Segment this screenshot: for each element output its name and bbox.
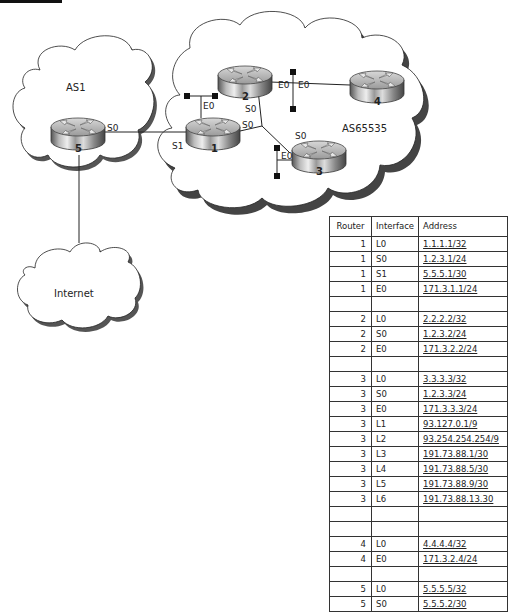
cell-interface: L0 [372,237,419,252]
cell-interface [372,567,419,582]
cell-address: 1.2.3.1/24 [419,252,508,267]
svg-text:3: 3 [316,166,323,177]
cell-address: 171.3.1.1/24 [419,282,508,297]
cell-address [419,567,508,582]
cell-router [330,297,372,312]
table-row: 3L6191.73.88.13.30 [330,492,508,507]
cloud-as65535: AS65535 [158,11,429,214]
cell-router: 5 [330,597,372,612]
table-row: 1S01.2.3.1/24 [330,252,508,267]
cell-address: 5.5.5.1/30 [419,267,508,282]
cell-interface: E0 [372,282,419,297]
cell-interface: E0 [372,552,419,567]
table-row [330,567,508,582]
table-row: 3L5191.73.88.9/30 [330,477,508,492]
cell-interface: L4 [372,462,419,477]
svg-text:5: 5 [75,143,82,154]
cell-interface: L0 [372,372,419,387]
cloud-as1: AS1 [13,36,157,171]
table-row: 5S05.5.5.2/30 [330,597,508,612]
table-row [330,507,508,522]
table-row: 5L05.5.5.5/32 [330,582,508,597]
table-row: 2L02.2.2.2/32 [330,312,508,327]
label-r1-s0: S0 [242,120,254,130]
cell-address: 3.3.3.3/32 [419,372,508,387]
cell-router: 3 [330,432,372,447]
table-row: 4L04.4.4.4/32 [330,537,508,552]
cell-address: 2.2.2.2/32 [419,312,508,327]
cell-interface [372,297,419,312]
cloud-label-as65535: AS65535 [342,123,387,134]
table-header-row: Router Interface Address [330,217,508,237]
cell-router: 3 [330,387,372,402]
cloud-label-internet: Internet [54,288,94,299]
cell-interface: L0 [372,582,419,597]
cell-interface: E0 [372,402,419,417]
svg-text:4: 4 [374,96,381,107]
cell-router: 3 [330,492,372,507]
table-row: 4E0171.3.2.4/24 [330,552,508,567]
cell-interface [372,357,419,372]
cell-router: 1 [330,282,372,297]
cell-interface: L6 [372,492,419,507]
label-r3-e0: E0 [281,151,293,161]
cell-interface: S1 [372,267,419,282]
cell-address [419,522,508,537]
cell-interface: S0 [372,597,419,612]
table-row: 3L03.3.3.3/32 [330,372,508,387]
cell-router [330,522,372,537]
cell-router: 2 [330,342,372,357]
cell-address: 171.3.2.2/24 [419,342,508,357]
cell-interface: L3 [372,447,419,462]
cell-address: 1.1.1.1/32 [419,237,508,252]
cloud-internet: Internet [17,243,143,332]
table-row: 3L4191.73.88.5/30 [330,462,508,477]
cell-address: 191.73.88.9/30 [419,477,508,492]
cell-router: 3 [330,372,372,387]
cell-router: 3 [330,447,372,462]
cell-interface: L0 [372,312,419,327]
svg-text:1: 1 [211,143,218,154]
header-interface: Interface [372,217,419,237]
cell-router: 3 [330,477,372,492]
cell-address: 191.73.88.5/30 [419,462,508,477]
cell-interface: S0 [372,327,419,342]
header-router: Router [330,217,372,237]
cell-router: 5 [330,582,372,597]
cell-router: 3 [330,417,372,432]
label-r1-e0: E0 [203,101,215,111]
cell-router: 4 [330,552,372,567]
label-r4-e0: E0 [298,80,310,90]
cell-router: 2 [330,327,372,342]
table-row [330,357,508,372]
cell-router: 1 [330,237,372,252]
cell-interface: S0 [372,252,419,267]
cell-address [419,357,508,372]
cell-interface [372,507,419,522]
cell-address: 4.4.4.4/32 [419,537,508,552]
label-r3-s0: S0 [295,131,307,141]
label-r2-s0: S0 [245,104,257,114]
cell-interface [372,522,419,537]
cell-interface: E0 [372,342,419,357]
cell-router: 1 [330,267,372,282]
cell-interface: L5 [372,477,419,492]
cell-router [330,567,372,582]
cell-address: 5.5.5.2/30 [419,597,508,612]
label-r1-s1: S1 [172,141,183,151]
cell-router [330,357,372,372]
cell-router [330,507,372,522]
label-r2-e0: E0 [278,80,290,90]
cell-address: 171.3.2.4/24 [419,552,508,567]
table-row: 3S01.2.3.3/24 [330,387,508,402]
cell-interface: S0 [372,387,419,402]
cell-address: 93.127.0.1/9 [419,417,508,432]
cell-interface: L1 [372,417,419,432]
table-row: 3L293.254.254.254/9 [330,432,508,447]
address-table: Router Interface Address 1L01.1.1.1/321S… [329,216,508,612]
table-row: 2E0171.3.2.2/24 [330,342,508,357]
table-row: 3E0171.3.3.3/24 [330,402,508,417]
svg-text:2: 2 [242,91,249,102]
cell-address [419,297,508,312]
cell-router: 3 [330,462,372,477]
